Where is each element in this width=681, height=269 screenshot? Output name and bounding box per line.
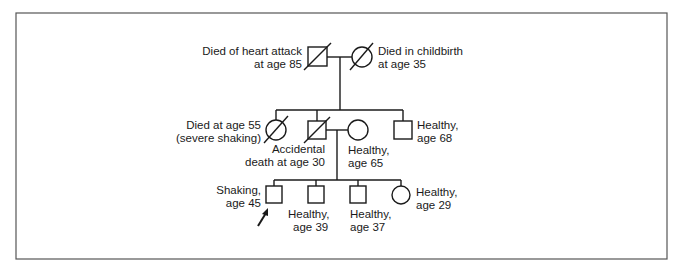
label-line-1: Accidental xyxy=(272,143,325,155)
individual-III-2: Healthy, age 39 xyxy=(288,186,329,233)
individual-II-3: Healthy, age 65 xyxy=(348,120,389,169)
male-symbol xyxy=(308,186,324,203)
male-symbol xyxy=(394,121,412,139)
label-line-2: age 45 xyxy=(226,197,261,209)
pedigree-figure: Died of heart attack at age 85 Died in c… xyxy=(0,0,681,269)
label-line-2: age 29 xyxy=(416,199,451,211)
label-line-1: Healthy, xyxy=(417,119,458,131)
label-line-2: at age 85 xyxy=(254,58,302,70)
label-line-2: age 39 xyxy=(293,221,328,233)
label-line-2: (severe shaking) xyxy=(176,132,261,144)
generation-1: Died of heart attack at age 85 Died in c… xyxy=(202,43,463,110)
pedigree-chart: Died of heart attack at age 85 Died in c… xyxy=(0,0,681,269)
label-line-1: Died at age 55 xyxy=(186,119,261,131)
individual-III-3: Healthy, age 37 xyxy=(350,186,391,233)
figure-frame xyxy=(16,13,667,259)
label-line-1: Died of heart attack xyxy=(202,45,302,57)
label-line-2: at age 35 xyxy=(378,58,426,70)
female-symbol xyxy=(392,186,410,204)
label-line-1: Healthy, xyxy=(288,208,329,220)
individual-III-1: Shaking, age 45 xyxy=(216,184,282,226)
label-line-2: age 65 xyxy=(348,157,383,169)
generation-3: Shaking, age 45 Healthy, age 39 Healthy,… xyxy=(216,180,457,233)
individual-II-4: Healthy, age 68 xyxy=(394,119,458,144)
male-symbol xyxy=(266,186,282,203)
label-line-2: age 68 xyxy=(417,132,452,144)
label-line-1: Healthy, xyxy=(416,186,457,198)
label-line-2: age 37 xyxy=(350,221,385,233)
generation-2: Died at age 55 (severe shaking) Accident… xyxy=(176,110,458,180)
label-line-1: Healthy, xyxy=(350,208,391,220)
label-line-1: Healthy, xyxy=(348,144,389,156)
label-line-2: death at age 30 xyxy=(245,156,325,168)
female-symbol xyxy=(348,120,368,140)
individual-III-4: Healthy, age 29 xyxy=(392,186,457,211)
individual-I-2: Died in childbirth at age 35 xyxy=(350,43,463,70)
label-line-1: Died in childbirth xyxy=(378,45,463,57)
individual-II-1: Died at age 55 (severe shaking) xyxy=(176,116,288,144)
label-line-1: Shaking, xyxy=(216,184,261,196)
individual-I-1: Died of heart attack at age 85 xyxy=(202,43,331,70)
proband-arrow-icon xyxy=(258,208,268,226)
male-symbol xyxy=(350,186,366,203)
